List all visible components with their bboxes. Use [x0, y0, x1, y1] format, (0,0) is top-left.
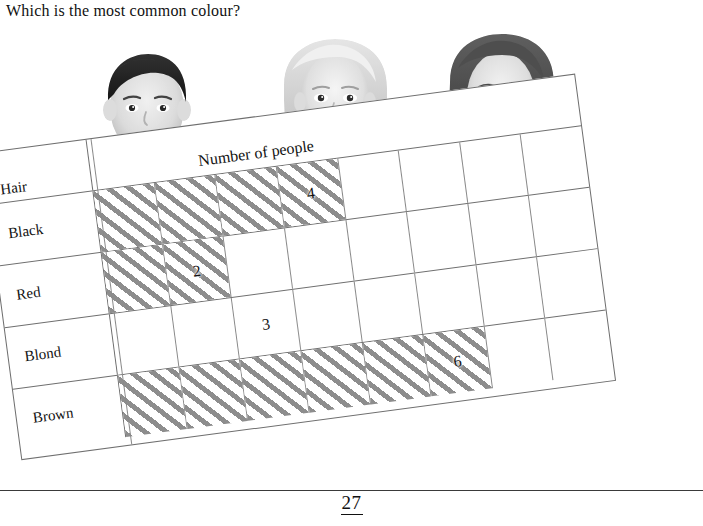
bar-cell[interactable]: 2: [163, 236, 232, 305]
page-number: 27: [0, 492, 703, 514]
question-text: Which is the most common colour?: [6, 2, 240, 20]
bar-cell[interactable]: [301, 343, 370, 413]
bar-cell[interactable]: 6: [423, 327, 492, 397]
value-label-blond: 3: [261, 315, 271, 334]
value-label-red: 2: [192, 261, 202, 280]
bar-cell[interactable]: [460, 134, 529, 203]
bar-cell[interactable]: [521, 126, 589, 194]
row-header-label: Hair: [0, 178, 28, 198]
footer-divider: [0, 490, 703, 491]
row-label-red: Red: [15, 283, 41, 303]
bar-cell[interactable]: [407, 204, 476, 273]
bar-cell[interactable]: 4: [277, 159, 346, 228]
bar-cell[interactable]: [216, 167, 285, 236]
row-label-cell-brown: Brown: [13, 376, 126, 451]
row-label-black: Black: [7, 220, 44, 241]
bar-cell[interactable]: [399, 142, 468, 211]
bar-cell[interactable]: [362, 335, 431, 405]
value-label-brown: 6: [452, 352, 462, 371]
bar-cell[interactable]: [346, 212, 415, 281]
bar-cell[interactable]: [293, 282, 362, 351]
bar-cell[interactable]: [546, 311, 614, 380]
row-label-brown: Brown: [32, 404, 75, 426]
bar-cell[interactable]: [338, 151, 407, 220]
row-label-blond: Blond: [24, 343, 63, 365]
bar-cell[interactable]: [155, 175, 224, 244]
bar-cell[interactable]: [224, 228, 293, 297]
bar-cell[interactable]: 3: [232, 290, 301, 359]
bar-cell[interactable]: [529, 188, 597, 256]
bar-cell[interactable]: [476, 257, 545, 326]
bar-cell[interactable]: [468, 196, 537, 265]
bar-cell[interactable]: [240, 351, 309, 421]
bar-cell[interactable]: [179, 359, 248, 429]
bar-cell[interactable]: [354, 273, 423, 342]
bar-cell[interactable]: [415, 265, 484, 334]
bar-cell[interactable]: [485, 319, 554, 389]
page-number-value: 27: [341, 492, 363, 515]
bar-cell[interactable]: [285, 220, 354, 289]
bar-cell[interactable]: [537, 249, 605, 317]
bar-cell[interactable]: [171, 298, 240, 367]
value-label-black: 4: [306, 184, 316, 203]
